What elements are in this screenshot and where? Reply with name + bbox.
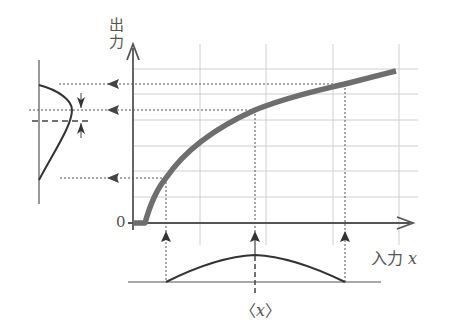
mean-input-label: 〈x〉 [240, 297, 281, 321]
output-distribution [32, 60, 92, 204]
y-axis-label-line2: 力 [107, 34, 125, 51]
x-axis-label-text: 入力 [371, 249, 403, 268]
axes [127, 44, 413, 230]
mean-var: x [256, 301, 265, 320]
input-arrows [161, 231, 350, 254]
transfer-diagram [0, 0, 453, 336]
arrow-left-icon [107, 79, 119, 89]
output-arrowheads [107, 79, 119, 183]
mean-open-bracket: 〈 [240, 301, 256, 320]
arrow-up-icon [161, 231, 171, 242]
origin-label: 0 [116, 213, 126, 231]
x-axis-label-var: x [408, 249, 417, 268]
x-axis-label: 入力 x [371, 245, 417, 269]
output-dist-curve [39, 85, 72, 180]
y-axis-label: 出 力 [107, 17, 125, 51]
mean-close-bracket: 〉 [265, 301, 281, 320]
y-axis-label-line1: 出 [107, 17, 125, 34]
